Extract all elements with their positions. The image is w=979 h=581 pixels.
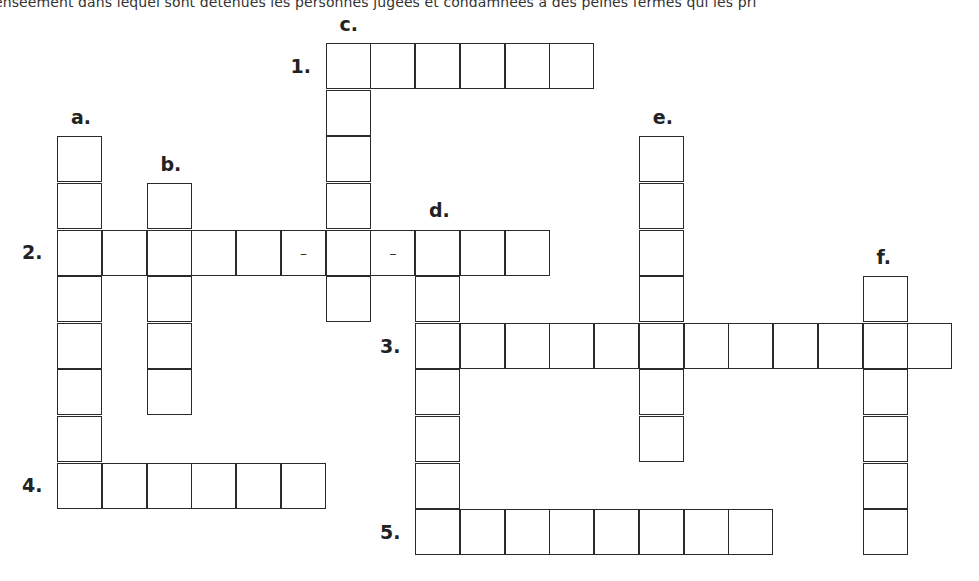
grid-cell[interactable] [415,369,460,415]
grid-cell[interactable] [326,136,371,182]
grid-cell[interactable] [147,183,192,229]
grid-cell[interactable] [460,230,505,276]
grid-cell[interactable] [505,43,550,89]
grid-cell[interactable] [415,416,460,462]
grid-cell[interactable] [639,183,684,229]
grid-cell[interactable] [639,416,684,462]
grid-cell[interactable] [505,230,550,276]
grid-cell[interactable] [57,463,102,509]
grid-cell[interactable] [684,323,729,369]
grid-cell[interactable] [639,323,684,369]
grid-cell[interactable] [415,276,460,322]
grid-cell[interactable] [728,323,773,369]
down-clue-letter: c. [340,13,358,35]
crossword-grid: ––1.2.3.4.5.a.b.c.d.e.f. [0,0,979,581]
down-clue-letter: b. [161,153,182,175]
grid-cell[interactable] [326,43,371,89]
grid-cell[interactable] [57,323,102,369]
grid-cell[interactable] [639,369,684,415]
grid-cell[interactable] [549,43,594,89]
grid-cell[interactable] [639,276,684,322]
grid-cell[interactable] [57,276,102,322]
grid-cell[interactable] [460,43,505,89]
grid-cell[interactable] [639,509,684,555]
grid-cell[interactable] [147,463,192,509]
grid-cell[interactable] [594,323,639,369]
grid-cell[interactable] [863,509,908,555]
across-clue-number: 5. [380,521,400,543]
grid-cell[interactable] [460,509,505,555]
across-clue-number: 3. [380,335,400,357]
grid-cell[interactable] [594,509,639,555]
grid-cell[interactable] [147,276,192,322]
grid-cell[interactable] [818,323,863,369]
grid-cell[interactable] [57,230,102,276]
grid-cell[interactable] [57,369,102,415]
grid-cell-hyphen: – [370,230,415,276]
grid-cell[interactable] [549,323,594,369]
grid-cell[interactable] [57,136,102,182]
across-clue-number: 1. [291,55,311,77]
grid-cell[interactable] [863,323,908,369]
grid-cell[interactable] [907,323,952,369]
grid-cell[interactable] [326,230,371,276]
grid-cell[interactable] [505,323,550,369]
grid-cell[interactable] [191,463,236,509]
down-clue-letter: e. [653,106,673,128]
down-clue-letter: f. [877,246,891,268]
grid-cell[interactable] [147,323,192,369]
grid-cell[interactable] [415,463,460,509]
grid-cell[interactable] [147,230,192,276]
grid-cell-hyphen: – [281,230,326,276]
across-clue-number: 4. [22,474,42,496]
grid-cell[interactable] [370,43,415,89]
grid-cell[interactable] [639,230,684,276]
grid-cell[interactable] [57,183,102,229]
grid-cell[interactable] [281,463,326,509]
grid-cell[interactable] [326,276,371,322]
grid-cell[interactable] [549,509,594,555]
grid-cell[interactable] [460,323,505,369]
grid-cell[interactable] [236,230,281,276]
grid-cell[interactable] [102,230,147,276]
grid-cell[interactable] [415,43,460,89]
grid-cell[interactable] [236,463,281,509]
grid-cell[interactable] [415,230,460,276]
down-clue-letter: a. [71,106,91,128]
grid-cell[interactable] [773,323,818,369]
grid-cell[interactable] [415,509,460,555]
grid-cell[interactable] [728,509,773,555]
grid-cell[interactable] [191,230,236,276]
grid-cell[interactable] [147,369,192,415]
grid-cell[interactable] [415,323,460,369]
grid-cell[interactable] [639,136,684,182]
grid-cell[interactable] [57,416,102,462]
grid-cell[interactable] [863,369,908,415]
grid-cell[interactable] [505,509,550,555]
grid-cell[interactable] [863,276,908,322]
grid-cell[interactable] [684,509,729,555]
across-clue-number: 2. [22,241,42,263]
down-clue-letter: d. [429,199,450,221]
grid-cell[interactable] [863,463,908,509]
grid-cell[interactable] [102,463,147,509]
grid-cell[interactable] [326,183,371,229]
grid-cell[interactable] [863,416,908,462]
grid-cell[interactable] [326,90,371,136]
